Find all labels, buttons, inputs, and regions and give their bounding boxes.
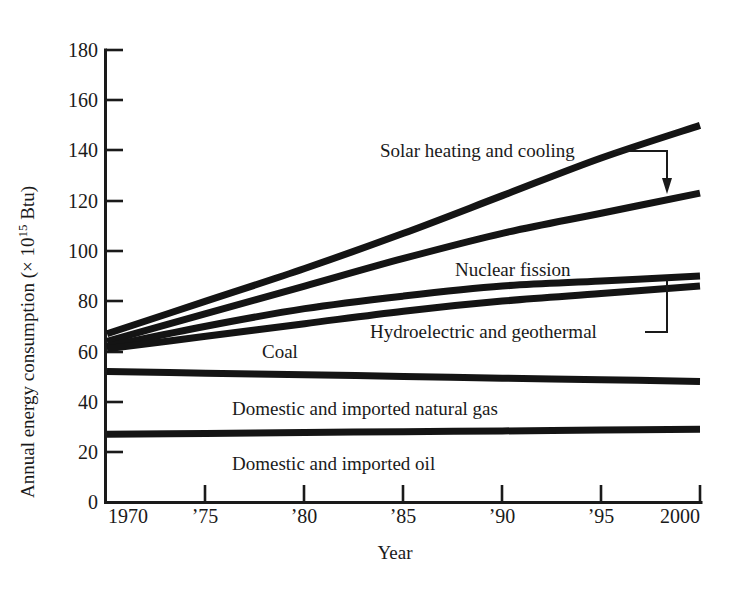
y-tick-label-20: 20 [78, 441, 98, 463]
y-tick-label-160: 160 [68, 89, 98, 111]
y-axis-title-group: Annual energy consumption (× 1015 Btu) [15, 186, 39, 498]
series-line-domestic-and-imported-natural-gas [107, 371, 700, 381]
y-tick-label-60: 60 [78, 341, 98, 363]
energy-consumption-line-chart: Annual energy consumption (× 1015 Btu) 1… [0, 0, 756, 594]
series-line-domestic-and-imported-oil [107, 429, 700, 434]
x-axis-ticks: 1970 ’75 ’80 ’85 ’90 ’95 2000 [108, 485, 700, 527]
x-axis-title: Year [377, 542, 413, 563]
x-tick-label-1985: ’85 [390, 505, 417, 527]
y-axis-title: Annual energy consumption (× 1015 Btu) [15, 186, 39, 498]
y-axis-title-prefix: Annual energy consumption (× 10 [17, 238, 39, 499]
x-tick-label-1995: ’95 [588, 505, 615, 527]
series-label-domestic-and-imported-oil: Domestic and imported oil [232, 453, 435, 474]
x-tick-label-1975: ’75 [192, 505, 219, 527]
y-tick-label-180: 180 [68, 39, 98, 61]
x-tick-label-1990: ’90 [489, 505, 516, 527]
y-tick-label-40: 40 [78, 391, 98, 413]
solar-callout-leader [614, 151, 667, 178]
figure-container: Annual energy consumption (× 1015 Btu) 1… [0, 0, 756, 594]
y-tick-label-80: 80 [78, 290, 98, 312]
x-tick-label-2000: 2000 [660, 505, 700, 527]
solar-callout-arrowhead-icon [662, 178, 672, 194]
x-tick-label-1980: ’80 [291, 505, 318, 527]
y-axis-ticks: 180 160 140 120 100 80 60 40 20 0 [68, 39, 123, 513]
series-label-coal: Coal [262, 341, 298, 362]
series-group [107, 125, 700, 434]
y-tick-label-120: 120 [68, 190, 98, 212]
x-tick-label-1970: 1970 [108, 505, 148, 527]
y-axis-title-suffix: Btu) [17, 186, 39, 225]
series-label-hydroelectric-and-geothermal: Hydroelectric and geothermal [370, 321, 597, 342]
series-label-nuclear-fission: Nuclear fission [455, 259, 571, 280]
y-tick-label-140: 140 [68, 139, 98, 161]
y-tick-label-0: 0 [88, 491, 98, 513]
series-label-solar-heating-and-cooling: Solar heating and cooling [380, 140, 575, 161]
series-line-nuclear-fission [107, 193, 700, 341]
y-tick-label-100: 100 [68, 240, 98, 262]
series-label-domestic-and-imported-natural-gas: Domestic and imported natural gas [232, 398, 498, 419]
y-axis-title-exponent: 15 [15, 225, 30, 238]
